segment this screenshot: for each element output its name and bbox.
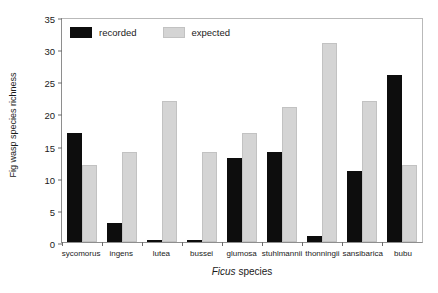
y-axis-tick-label: 0 [50,239,58,250]
x-axis-tick-label-stuhlmannii: stuhlmannii [262,249,302,258]
x-axis-tick-label-bubu: bubu [383,249,423,258]
y-axis-title: Fig wasp species richness [4,0,22,250]
bar-group [262,19,302,242]
bar-group [102,19,142,242]
y-axis-tick-label: 30 [44,46,58,57]
legend-item-expected: expected [163,27,231,38]
y-axis-tick-label: 15 [44,142,58,153]
bar-group [342,19,382,242]
bar-expected-bubu [402,165,417,242]
bar-group [222,19,262,242]
x-axis-title-genus: Ficus [212,266,236,277]
x-axis-tick-label-ingens: ingens [101,249,141,258]
bar-expected-sycomorus [82,165,97,242]
bars-container [62,19,422,242]
bar-expected-bussei [202,152,217,242]
legend-label-recorded: recorded [99,27,137,38]
y-axis-tick-label: 25 [44,78,58,89]
y-axis-tick-label: 20 [44,110,58,121]
bar-expected-thonningii [322,43,337,242]
bar-recorded-thonningii [307,236,322,242]
bar-group [182,19,222,242]
bar-group [142,19,182,242]
bar-recorded-lutea [147,240,162,242]
bar-recorded-ingens [107,223,122,242]
x-axis-tick-label-thonningii: thonningii [302,249,342,258]
bar-recorded-sycomorus [67,133,82,242]
legend-swatch-expected [163,27,185,38]
x-axis-title: Ficus species [61,266,423,277]
x-axis-tick-mark [62,242,63,246]
bar-expected-ingens [122,152,137,242]
y-axis-tick: 15 [44,142,62,153]
bar-expected-glumosa [242,133,257,242]
x-axis-tick-mark [222,242,223,246]
x-axis-title-suffix: species [236,266,273,277]
bar-expected-stuhlmannii [282,107,297,242]
x-axis-tick-labels: sycomorusingensluteabusseiglumosastuhlma… [61,249,423,258]
x-axis-tick-label-bussei: bussei [181,249,221,258]
x-axis-tick-mark [182,242,183,246]
x-axis-tick-mark [142,242,143,246]
y-axis-tick-label: 10 [44,174,58,185]
y-axis-title-text: Fig wasp species richness [8,72,18,177]
y-axis-tick-label: 35 [44,14,58,25]
x-axis-tick-mark [302,242,303,246]
bar-recorded-sansibarica [347,171,362,242]
bar-group [382,19,422,242]
y-axis-tick: 5 [50,206,62,217]
bar-group [302,19,342,242]
bar-expected-sansibarica [362,101,377,242]
x-axis-tick-mark [102,242,103,246]
bar-recorded-glumosa [227,158,242,242]
bar-recorded-bussei [187,240,202,242]
bar-recorded-bubu [387,75,402,242]
y-axis-tick: 30 [44,46,62,57]
legend-swatch-recorded [70,27,92,38]
x-axis-tick-label-lutea: lutea [141,249,181,258]
plot-area: 05101520253035 [61,18,423,243]
legend-label-expected: expected [192,27,231,38]
x-axis-tick-label-glumosa: glumosa [222,249,262,258]
y-axis-tick: 20 [44,110,62,121]
bar-group [62,19,102,242]
bar-recorded-stuhlmannii [267,152,282,242]
bar-chart-figure: Fig wasp species richness 05101520253035… [0,0,438,293]
y-axis-tick: 25 [44,78,62,89]
x-axis-tick-mark [342,242,343,246]
y-axis-tick: 10 [44,174,62,185]
x-axis-tick-mark [382,242,383,246]
x-axis-tick-label-sansibarica: sansibarica [342,249,382,258]
x-axis-tick-mark [262,242,263,246]
y-axis-tick-label: 5 [50,206,58,217]
chart-legend: recordedexpected [70,27,230,38]
legend-item-recorded: recorded [70,27,137,38]
y-axis-tick: 35 [44,14,62,25]
x-axis-tick-label-sycomorus: sycomorus [61,249,101,258]
y-axis-tick: 0 [50,239,62,250]
bar-expected-lutea [162,101,177,242]
